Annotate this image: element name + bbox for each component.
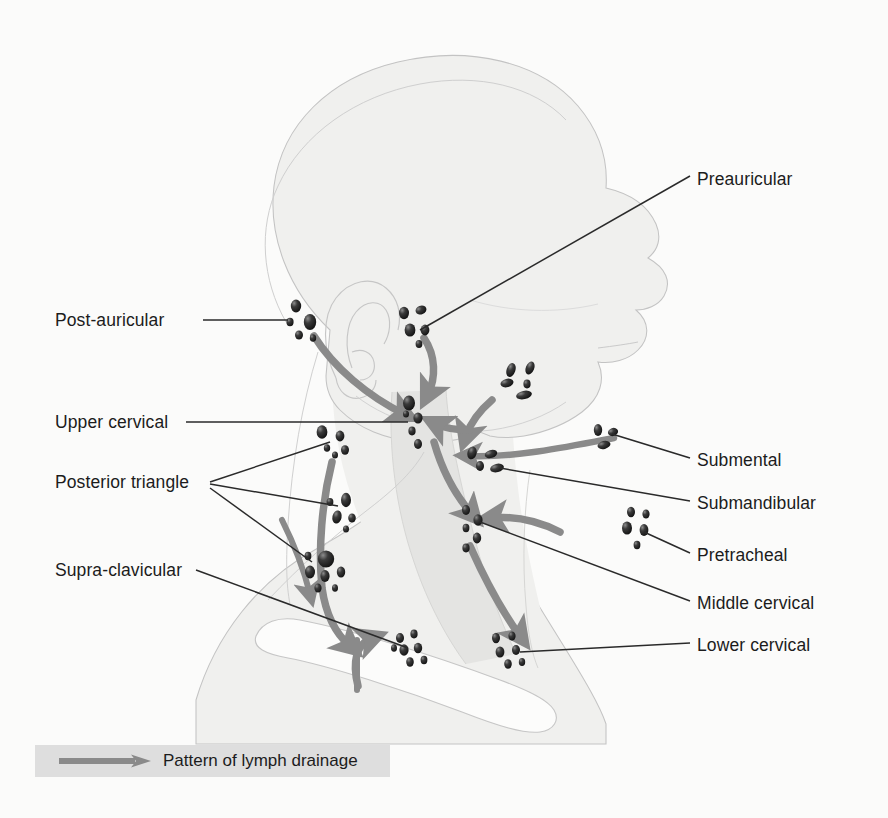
legend-label: Pattern of lymph drainage bbox=[163, 751, 358, 771]
label-submandibular[interactable]: Submandibular bbox=[697, 495, 816, 513]
arrow-right-icon bbox=[57, 753, 153, 769]
label-posterior-triangle[interactable]: Posterior triangle bbox=[55, 474, 189, 492]
leader-posterior-1 bbox=[210, 442, 330, 482]
label-supra-clavicular[interactable]: Supra-clavicular bbox=[55, 562, 182, 580]
label-lower-cervical[interactable]: Lower cervical bbox=[697, 637, 810, 655]
label-submental[interactable]: Submental bbox=[697, 452, 782, 470]
legend: Pattern of lymph drainage bbox=[35, 745, 390, 777]
diagram-stage: Post-auricular Upper cervical Posterior … bbox=[0, 0, 888, 818]
node-group-posterior-middle bbox=[327, 493, 356, 533]
label-post-auricular[interactable]: Post-auricular bbox=[55, 312, 164, 330]
label-pretracheal[interactable]: Pretracheal bbox=[697, 547, 788, 565]
label-middle-cervical[interactable]: Middle cervical bbox=[697, 595, 814, 613]
head-outline bbox=[273, 56, 668, 443]
anatomy-illustration bbox=[0, 0, 888, 818]
leader-submental bbox=[612, 434, 690, 458]
leader-pretracheal bbox=[644, 532, 690, 553]
node-group-pretracheal bbox=[622, 507, 650, 549]
label-preauricular[interactable]: Preauricular bbox=[697, 171, 793, 189]
label-upper-cervical[interactable]: Upper cervical bbox=[55, 414, 168, 432]
